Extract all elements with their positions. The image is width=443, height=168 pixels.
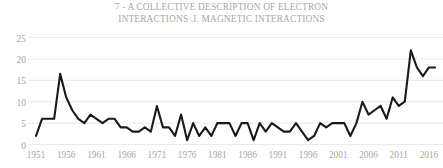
x-tick-label: 1971 [148, 150, 167, 160]
x-tick-label: 1951 [27, 150, 46, 160]
citation-chart: 7 - A COLLECTIVE DESCRIPTION OF ELECTRON… [0, 0, 443, 168]
x-tick-label: 2001 [329, 150, 348, 160]
x-tick-label: 1986 [238, 150, 257, 160]
x-tick-label: 2016 [420, 150, 439, 160]
x-tick-label: 1966 [117, 150, 136, 160]
x-axis-tick-labels: 1951195619611966197119761981198619911996… [0, 0, 443, 168]
x-tick-label: 1956 [57, 150, 76, 160]
x-tick-label: 2011 [390, 150, 408, 160]
x-tick-label: 2006 [359, 150, 378, 160]
x-tick-label: 1996 [299, 150, 318, 160]
x-tick-label: 1981 [208, 150, 227, 160]
x-tick-label: 1961 [87, 150, 106, 160]
x-tick-label: 1976 [178, 150, 197, 160]
x-tick-label: 1991 [269, 150, 288, 160]
